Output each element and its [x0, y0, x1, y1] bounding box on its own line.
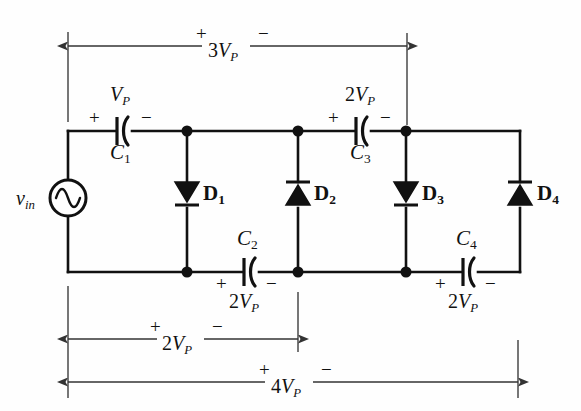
diode-d2-symbol [286, 182, 310, 205]
capacitor-c3-minus-sign: − [380, 108, 391, 127]
diode-d1-symbol [175, 182, 199, 205]
capacitor-c2-value: 2VP [229, 291, 259, 314]
measurement-ticks [68, 32, 518, 398]
capacitor-c1-minus-sign: − [141, 108, 152, 127]
diode-d1-label: D1 [203, 183, 225, 206]
measurement-bottom-4vp-plus: + [259, 360, 270, 379]
diode-d3-label: D3 [422, 183, 444, 206]
capacitor-c4-value: 2VP [448, 291, 478, 314]
measurement-bottom-2vp-value: 2VP [162, 333, 192, 356]
junction-dot-top-1 [182, 126, 193, 137]
ac-source-symbol [50, 180, 86, 216]
capacitor-c1-plus-sign: + [89, 108, 100, 127]
junction-dot-top-2 [293, 126, 304, 137]
measurement-bottom-4vp-value: 4VP [271, 376, 301, 399]
capacitor-c3-value: 2VP [345, 84, 375, 107]
capacitor-c2-name: C2 [237, 228, 258, 251]
junction-dot-bottom-2 [293, 267, 304, 278]
measurement-arrows [68, 46, 518, 382]
capacitor-c2-minus-sign: − [266, 274, 277, 293]
capacitor-c3-name: C3 [350, 142, 371, 165]
source-label-vin: vin [16, 188, 35, 211]
measurement-bottom-2vp-minus: − [212, 317, 223, 336]
measurement-top-3vp-value: 3VP [208, 40, 238, 63]
circuit-schematic-svg [0, 0, 581, 411]
diode-d2-label: D2 [314, 183, 336, 206]
capacitor-c1-name: C1 [110, 142, 131, 165]
junction-dot-top-3 [401, 126, 412, 137]
measurement-bottom-2vp-plus: + [150, 317, 161, 336]
diode-d3-symbol [394, 182, 418, 205]
measurement-bottom-4vp-minus: − [321, 360, 332, 379]
capacitor-c4-name: C4 [456, 228, 477, 251]
junction-dot-bottom-3 [401, 267, 412, 278]
capacitor-c4-plus-sign: + [435, 274, 446, 293]
diode-d4-symbol [508, 182, 532, 205]
capacitor-c2-plus-sign: + [216, 274, 227, 293]
measurement-top-3vp-minus: − [258, 24, 269, 43]
diode-d4-label: D4 [537, 183, 559, 206]
capacitor-c4-symbol [463, 258, 474, 286]
capacitor-c4-minus-sign: − [485, 274, 496, 293]
junction-dot-bottom-1 [182, 267, 193, 278]
measurement-top-3vp-plus: + [196, 24, 207, 43]
capacitor-c2-symbol [244, 258, 255, 286]
capacitor-c1-value: VP [110, 84, 130, 107]
capacitor-c3-plus-sign: + [328, 108, 339, 127]
circuit-diagram-figure: vin VP C1 + − 2VP C3 + − C2 2VP + − C4 2… [0, 0, 581, 411]
